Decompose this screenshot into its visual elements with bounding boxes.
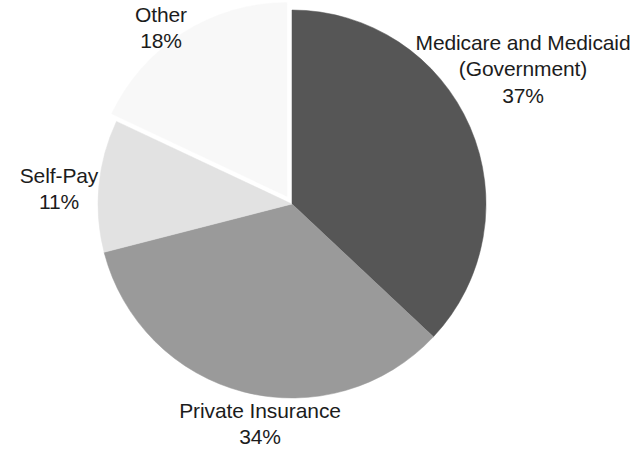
slice-label-self-pay: Self-Pay 11% bbox=[0, 163, 120, 216]
slice-label-self-pay-line1: Self-Pay bbox=[0, 163, 120, 189]
slice-label-private-insurance-line1: Private Insurance bbox=[160, 398, 360, 424]
slice-label-medicare-and-medicaid: Medicare and Medicaid (Government) 37% bbox=[415, 30, 631, 109]
slice-label-medicare-line1: Medicare and Medicaid bbox=[415, 30, 631, 56]
slice-value-private-insurance: 34% bbox=[160, 424, 360, 450]
slice-value-self-pay: 11% bbox=[0, 189, 120, 215]
slice-label-medicare-line2: (Government) bbox=[415, 56, 631, 82]
slice-label-other-line1: Other bbox=[96, 2, 226, 28]
pie-chart: Medicare and Medicaid (Government) 37% O… bbox=[0, 0, 631, 453]
slice-label-private-insurance: Private Insurance 34% bbox=[160, 398, 360, 451]
slice-value-other: 18% bbox=[96, 28, 226, 54]
slice-value-medicare: 37% bbox=[415, 83, 631, 109]
slice-label-other: Other 18% bbox=[96, 2, 226, 55]
